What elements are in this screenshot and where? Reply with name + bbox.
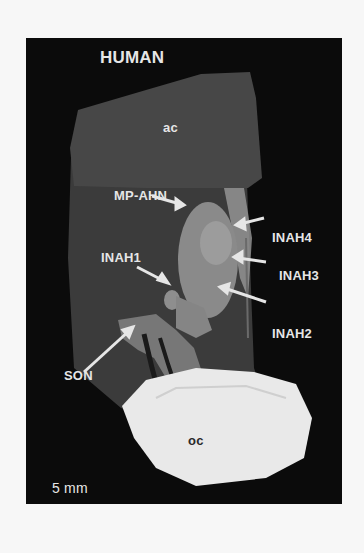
label-mp-ahn: MP-AHN xyxy=(114,188,167,203)
figure-panel: HUMAN ac MP-AHN INAH4 INAH1 INAH3 INAH2 … xyxy=(26,38,342,504)
scale-bar-label: 5 mm xyxy=(52,480,88,496)
label-oc: oc xyxy=(188,433,204,448)
label-inah3: INAH3 xyxy=(279,268,319,283)
label-inah4: INAH4 xyxy=(272,230,312,245)
label-inah2: INAH2 xyxy=(272,326,312,341)
label-son: SON xyxy=(64,368,93,383)
label-ac: ac xyxy=(163,120,178,135)
label-inah1: INAH1 xyxy=(101,250,141,265)
species-title: HUMAN xyxy=(100,48,164,68)
